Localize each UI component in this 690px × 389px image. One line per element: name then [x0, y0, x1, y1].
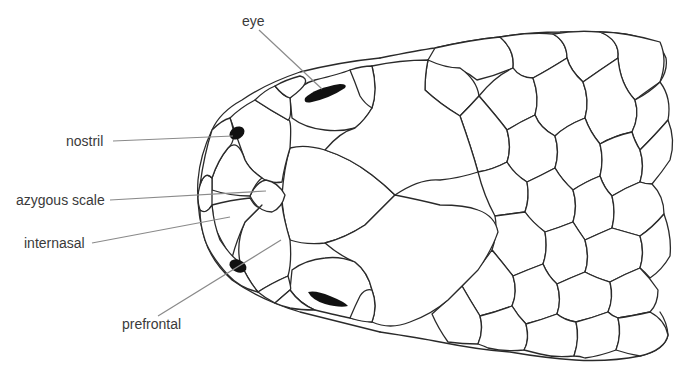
snake-head-diagram: eye nostril azygous scale internasal pre… [0, 0, 690, 389]
label-nostril: nostril [66, 133, 103, 149]
label-internasal: internasal [24, 235, 85, 251]
label-azygous-scale: azygous scale [16, 192, 105, 208]
label-prefrontal: prefrontal [122, 316, 181, 332]
label-eye: eye [242, 13, 265, 29]
